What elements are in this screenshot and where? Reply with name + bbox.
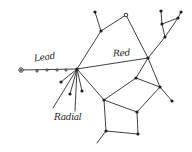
edge-left-end-hub	[21, 69, 77, 70]
edge-hub-top-b	[77, 31, 101, 69]
node-tr-3	[160, 22, 163, 25]
node-top-b	[99, 29, 102, 32]
edge-red-end-mid-2	[148, 58, 160, 87]
nodes-layer	[19, 9, 183, 135]
edge-mid-2-mid-3	[160, 87, 172, 101]
edge-mid-1-mid-4	[104, 78, 136, 100]
edge-tr-5-tr-3	[162, 24, 165, 37]
node-top-a	[93, 10, 96, 13]
node-tr-1	[159, 9, 162, 12]
node-mid-4	[102, 98, 105, 101]
edge-red-end-tr-5	[148, 37, 165, 58]
node-mid-1	[134, 76, 137, 79]
edge-bot-1-bot-2	[106, 131, 138, 134]
node-rad-1	[59, 80, 62, 83]
node-rad-3	[80, 89, 83, 92]
node-rad-2	[68, 92, 71, 95]
node-mid-5	[135, 110, 138, 113]
node-top-c	[124, 13, 128, 17]
node-lead-dot-1	[36, 70, 38, 72]
edge-hub-rad-4	[53, 69, 77, 108]
edge-hub-mid-4	[77, 69, 104, 100]
node-lead-dot-3	[56, 69, 58, 71]
edge-hub-rad-1	[61, 69, 77, 82]
edge-bot-2-mid-5	[137, 112, 138, 134]
edge-tr-3-tr-1	[161, 11, 162, 24]
node-lead-dot-4	[65, 69, 67, 71]
edge-mid-4-mid-5	[104, 100, 137, 112]
edge-top-b-top-c	[101, 15, 126, 31]
node-tr-4	[176, 16, 179, 19]
edge-hub-red-end	[77, 58, 148, 69]
node-bot-1	[104, 129, 107, 132]
node-tr-5	[163, 35, 166, 38]
node-hub	[75, 67, 78, 70]
node-mid-2	[158, 85, 161, 88]
edge-top-b-top-a	[95, 12, 101, 31]
edge-mid-4-bot-1	[104, 100, 106, 131]
node-left-end-center	[20, 69, 22, 71]
node-mid-3	[170, 99, 173, 102]
label-red: Red	[113, 48, 131, 58]
network-diagram	[0, 0, 192, 152]
node-bot-2	[136, 132, 139, 135]
label-radial: Radial	[54, 113, 81, 122]
edge-bot-1-bot-3	[97, 131, 106, 143]
node-tr-2	[179, 10, 182, 13]
node-lead-dot-2	[46, 69, 48, 71]
node-red-end	[146, 56, 149, 59]
edge-mid-5-mid-2	[137, 87, 160, 112]
edge-red-end-mid-1	[136, 58, 148, 78]
